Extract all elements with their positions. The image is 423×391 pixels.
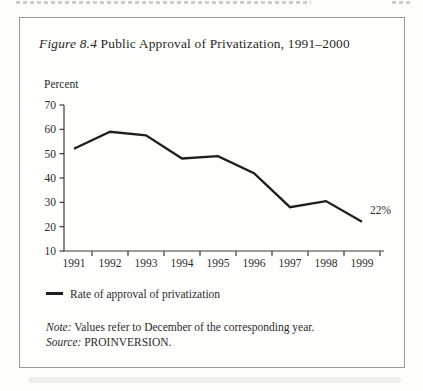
page-edge-shadow: [28, 377, 401, 383]
figure-box: Figure 8.4 Public Approval of Privatizat…: [19, 17, 405, 368]
y-tick-label: 60: [45, 123, 57, 135]
x-tick-label: 1996: [243, 257, 266, 269]
legend: Rate of approval of privatization: [46, 288, 220, 300]
approval-line: [74, 132, 362, 222]
y-tick-label: 10: [45, 245, 57, 257]
y-tick-label: 70: [45, 99, 57, 111]
y-tick-label: 50: [45, 148, 57, 160]
note-text: Values refer to December of the correspo…: [72, 321, 315, 333]
source-line: Source: PROINVERSION.: [46, 335, 314, 350]
x-tick-label: 1992: [99, 257, 122, 269]
annotation-22-percent: 22%: [370, 204, 392, 216]
figure-title: Figure 8.4 Public Approval of Privatizat…: [39, 36, 350, 52]
y-tick-label: 30: [45, 196, 57, 208]
line-chart: 7060504030201019911992199319941995199619…: [26, 83, 396, 283]
figure-number: Figure 8.4: [39, 36, 97, 51]
x-tick-label: 1998: [315, 257, 338, 269]
y-tick-label: 40: [45, 172, 57, 184]
note-line: Note: Values refer to December of the co…: [46, 320, 314, 335]
figure-notes: Note: Values refer to December of the co…: [46, 320, 314, 350]
x-tick-label: 1993: [135, 257, 158, 269]
clipped-running-header: [16, 1, 311, 4]
clipped-page-number: [392, 1, 410, 4]
axes: [64, 105, 384, 251]
source-text: PROINVERSION.: [81, 336, 171, 348]
note-label: Note:: [46, 321, 72, 333]
x-tick-label: 1995: [207, 257, 230, 269]
x-tick-label: 1997: [279, 257, 302, 269]
x-tick-label: 1991: [63, 257, 86, 269]
source-label: Source:: [46, 336, 81, 348]
x-tick-label: 1994: [171, 257, 194, 269]
figure-title-text: Public Approval of Privatization, 1991–2…: [97, 36, 350, 51]
y-tick-label: 20: [45, 221, 57, 233]
legend-label: Rate of approval of privatization: [70, 288, 220, 300]
x-tick-label: 1999: [351, 257, 374, 269]
legend-line-swatch: [46, 292, 63, 295]
